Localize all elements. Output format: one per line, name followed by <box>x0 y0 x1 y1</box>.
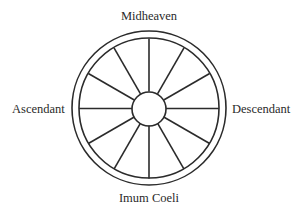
house-wheel-diagram: Midheaven Imum Coeli Ascendant Descendan… <box>0 0 302 210</box>
midheaven-label: Midheaven <box>0 10 298 23</box>
house-cusp-line <box>114 123 141 169</box>
house-cusp-line <box>164 74 210 101</box>
ascendant-label: Ascendant <box>12 103 65 116</box>
house-cusp-line <box>158 48 185 94</box>
house-cusp-line <box>88 117 134 144</box>
center-hub <box>132 92 166 126</box>
house-cusp-line <box>114 48 141 94</box>
house-cusp-line <box>88 74 134 101</box>
imum-coeli-label: Imum Coeli <box>0 192 298 205</box>
house-cusp-line <box>158 123 185 169</box>
house-cusp-line <box>164 117 210 144</box>
descendant-label: Descendant <box>232 103 290 116</box>
